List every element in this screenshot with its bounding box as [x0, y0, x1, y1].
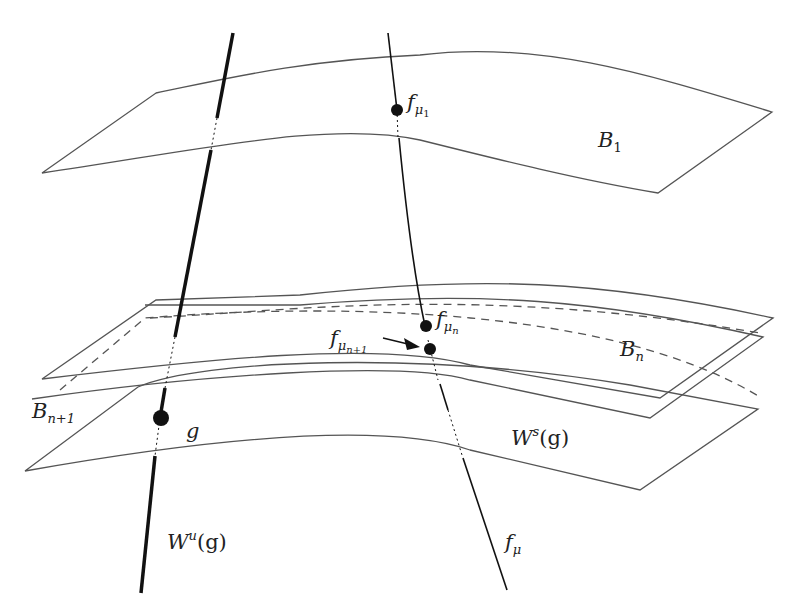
point-g	[153, 410, 169, 426]
label-fmu1: fμ1	[405, 90, 430, 119]
point-fmun1	[424, 343, 436, 355]
label-wu: Wu(g)	[167, 528, 227, 554]
diagram-canvas: B1 Bn Bn+1 Ws(g) Wu(g) fμ fμ1 fμn fμn+1 …	[0, 0, 799, 614]
point-fmun	[420, 320, 432, 332]
label-bn1: Bn+1	[31, 399, 75, 426]
label-fmun: fμn	[434, 307, 459, 336]
label-ws: Ws(g)	[511, 424, 569, 450]
surface-bn1	[32, 298, 763, 418]
arrow-icon	[383, 338, 420, 350]
label-fmu: fμ	[503, 530, 521, 557]
label-b1: B1	[597, 128, 622, 155]
curve-fmu	[388, 33, 507, 590]
label-bn: Bn	[619, 337, 644, 364]
label-g: g	[186, 419, 199, 443]
point-fmu1	[391, 104, 403, 116]
label-fmun1: fμn+1	[328, 326, 367, 355]
surface-b1	[42, 51, 772, 193]
surface-ws	[25, 363, 758, 490]
